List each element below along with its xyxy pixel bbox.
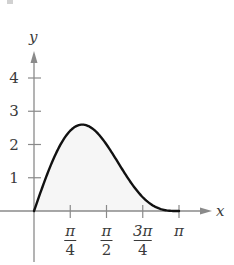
y-axis-label: y — [28, 28, 38, 46]
shaded-area — [34, 125, 179, 211]
y-tick-label: 3 — [9, 102, 19, 120]
y-tick-label: 2 — [9, 136, 19, 154]
y-tick-label: 1 — [9, 169, 19, 187]
y-axis-arrow-icon — [31, 51, 38, 63]
x-tick-label-numerator: π — [101, 222, 113, 240]
y-tick-label: 4 — [9, 69, 19, 87]
x-tick-label-denominator: 4 — [65, 241, 75, 259]
x-tick-label-denominator: 2 — [102, 241, 112, 259]
function-plot: 1234π4π23π4π x y — [0, 0, 234, 265]
x-axis-arrow-icon — [200, 208, 212, 215]
x-tick-label-numerator: 3π — [133, 222, 154, 240]
shaded-region — [34, 125, 179, 211]
x-axis-label: x — [216, 202, 225, 220]
x-tick-label-denominator: 4 — [138, 241, 148, 259]
x-tick-label: π — [173, 222, 185, 240]
x-tick-label-numerator: π — [64, 222, 76, 240]
